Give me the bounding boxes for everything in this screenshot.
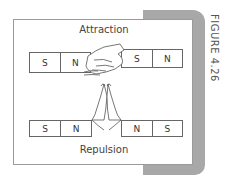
handshake-icon — [86, 44, 124, 74]
hands-illustration-icon — [0, 0, 227, 180]
praying-hand-right-icon — [107, 84, 121, 120]
praying-hand-left-icon — [92, 84, 107, 120]
